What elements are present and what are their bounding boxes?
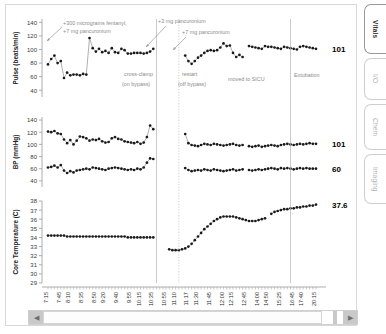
data-point-1-1 bbox=[114, 166, 117, 169]
data-point-0-0 bbox=[66, 71, 69, 74]
scrollbar-grip[interactable] bbox=[333, 311, 337, 324]
tab-imaging[interactable]: Imaging bbox=[364, 154, 386, 204]
data-point-1-0 bbox=[283, 143, 286, 146]
data-point-2-0 bbox=[59, 234, 62, 237]
data-point-2-0 bbox=[283, 208, 286, 211]
series-line-2-0 bbox=[169, 217, 265, 251]
data-point-1-1 bbox=[222, 170, 225, 173]
chart-plot-area[interactable]: 406080100120140Pulse (beats/min)10140608… bbox=[6, 5, 358, 327]
data-point-2-0 bbox=[72, 235, 75, 238]
data-point-1-1 bbox=[152, 158, 155, 161]
data-point-2-0 bbox=[139, 236, 142, 239]
data-point-0-0 bbox=[139, 52, 142, 55]
data-point-1-1 bbox=[308, 167, 311, 170]
data-point-0-0 bbox=[273, 46, 276, 49]
data-point-1-1 bbox=[216, 169, 219, 172]
data-point-1-1 bbox=[101, 168, 104, 171]
data-point-2-0 bbox=[232, 215, 235, 218]
data-point-1-0 bbox=[299, 142, 302, 145]
scrollbar-thumb[interactable] bbox=[43, 311, 322, 324]
data-point-2-0 bbox=[91, 235, 94, 238]
tab-chem[interactable]: Chem bbox=[364, 104, 386, 150]
data-point-1-1 bbox=[130, 168, 133, 171]
scrollbar-track[interactable] bbox=[43, 311, 343, 324]
data-point-2-0 bbox=[264, 217, 267, 220]
data-point-0-0 bbox=[126, 52, 129, 55]
data-point-0-0 bbox=[305, 45, 308, 48]
data-point-1-1 bbox=[209, 169, 212, 172]
data-point-0-0 bbox=[63, 77, 66, 80]
data-point-2-0 bbox=[280, 209, 283, 212]
annotation-fentanyl-line1: +300 micrograms fentanyl, bbox=[63, 20, 127, 26]
tab-io[interactable]: I/O bbox=[364, 58, 386, 100]
data-point-0-0 bbox=[85, 73, 88, 76]
data-point-0-0 bbox=[187, 60, 190, 63]
data-point-1-0 bbox=[286, 142, 289, 145]
data-point-2-0 bbox=[79, 235, 82, 238]
data-point-1-0 bbox=[216, 143, 219, 146]
x-tick-label-9: 10:35 bbox=[148, 292, 154, 306]
data-point-2-0 bbox=[152, 236, 155, 239]
side-tab-strip[interactable]: Vitals I/O Chem Imaging bbox=[358, 4, 386, 204]
data-point-2-0 bbox=[110, 235, 113, 238]
data-point-1-0 bbox=[315, 142, 318, 145]
data-point-0-0 bbox=[251, 45, 254, 48]
data-point-0-0 bbox=[101, 51, 104, 54]
end-value-0-0: 101 bbox=[332, 45, 346, 54]
horizontal-scrollbar[interactable]: ◀ ▶ bbox=[28, 310, 358, 325]
data-point-2-0 bbox=[248, 220, 251, 223]
data-point-0-0 bbox=[130, 52, 133, 55]
data-point-1-0 bbox=[193, 144, 196, 147]
data-point-1-1 bbox=[63, 169, 66, 172]
data-point-1-0 bbox=[47, 130, 50, 133]
data-point-2-0 bbox=[133, 236, 136, 239]
data-point-1-1 bbox=[190, 170, 193, 173]
data-point-1-0 bbox=[149, 124, 152, 127]
data-point-0-0 bbox=[219, 46, 222, 49]
annotation-panc3: +3 mg pancuronium bbox=[158, 18, 206, 24]
data-point-1-1 bbox=[142, 166, 145, 169]
data-point-0-0 bbox=[257, 47, 260, 50]
end-value-1-1: 60 bbox=[332, 165, 341, 174]
x-tick-label-21: 16:45 bbox=[289, 292, 295, 306]
x-tick-label-15: 12:00 bbox=[219, 292, 225, 306]
data-point-1-1 bbox=[95, 167, 98, 170]
scroll-right-button[interactable]: ▶ bbox=[343, 311, 357, 324]
data-point-1-0 bbox=[213, 142, 216, 145]
data-point-2-0 bbox=[203, 228, 206, 231]
vitals-chart-svg[interactable]: 406080100120140Pulse (beats/min)10140608… bbox=[6, 5, 358, 327]
data-point-0-0 bbox=[283, 45, 286, 48]
data-point-2-0 bbox=[238, 217, 241, 220]
data-point-1-1 bbox=[50, 166, 53, 169]
x-tick-label-13: 11:30 bbox=[193, 292, 199, 306]
data-point-0-0 bbox=[296, 48, 299, 51]
data-point-0-0 bbox=[286, 46, 289, 49]
data-point-2-0 bbox=[197, 235, 200, 238]
data-point-2-0 bbox=[50, 234, 53, 237]
data-point-1-0 bbox=[273, 144, 276, 147]
data-point-1-1 bbox=[276, 168, 279, 171]
scroll-left-button[interactable]: ◀ bbox=[29, 311, 43, 324]
tab-vitals[interactable]: Vitals bbox=[364, 4, 386, 54]
data-point-1-1 bbox=[203, 168, 206, 171]
data-point-0-0 bbox=[123, 49, 126, 52]
data-point-0-0 bbox=[142, 52, 145, 55]
data-point-0-0 bbox=[56, 62, 59, 65]
data-point-1-0 bbox=[219, 144, 222, 147]
data-point-1-1 bbox=[280, 167, 283, 170]
annotation-fentanyl-line2: +7 mg pancuronium bbox=[63, 28, 111, 34]
data-point-2-0 bbox=[219, 216, 222, 219]
data-point-0-0 bbox=[120, 47, 123, 50]
annotation-sicu: moved to SICU bbox=[228, 76, 265, 82]
data-point-0-0 bbox=[104, 50, 107, 53]
data-point-2-0 bbox=[206, 225, 209, 228]
data-point-1-1 bbox=[232, 168, 235, 171]
data-point-1-0 bbox=[190, 144, 193, 147]
data-point-1-0 bbox=[101, 140, 104, 143]
data-point-1-1 bbox=[59, 164, 62, 167]
data-point-0-0 bbox=[315, 47, 318, 50]
data-point-1-1 bbox=[238, 169, 241, 172]
data-point-0-0 bbox=[254, 46, 257, 49]
data-point-0-0 bbox=[91, 47, 94, 50]
x-tick-label-19: 14:50 bbox=[263, 292, 269, 306]
